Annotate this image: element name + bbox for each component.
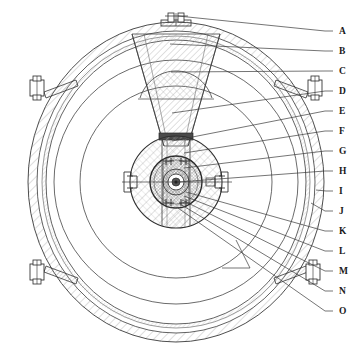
callout-label-j: J [339,206,344,216]
callout-label-e: E [339,106,346,116]
callout-label-c: C [339,66,346,76]
callout-label-n: N [339,286,346,296]
wedge-section [132,34,220,146]
callout-label-m: M [339,266,348,276]
callout-label-g: G [339,146,347,156]
callout-label-k: K [339,226,347,236]
top-stud-bracket [161,13,191,26]
callout-label-h: H [339,166,347,176]
callout-label-f: F [339,126,345,136]
callout-label-b: B [339,46,346,56]
callout-label-o: O [339,306,347,316]
callout-label-i: I [339,186,343,196]
callout-label-l: L [339,246,346,256]
callout-label-d: D [339,86,346,96]
callout-label-a: A [339,26,346,36]
technical-drawing-figure: ABCDEFGHIJKLMNO [0,0,364,350]
cross-section-drawing [0,0,364,350]
